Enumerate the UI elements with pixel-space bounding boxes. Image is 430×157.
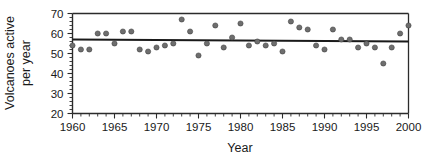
data-point [246,43,251,48]
data-point [230,35,235,40]
data-point [288,19,293,24]
x-tick-label: 1985 [270,121,296,133]
data-point [104,31,109,36]
data-point [398,31,403,36]
data-point [95,31,100,36]
data-point [204,41,209,46]
data-point [70,43,75,48]
data-point [221,45,226,50]
data-point [112,41,117,46]
data-point [179,17,184,22]
data-point [314,43,319,48]
x-tick-label: 1965 [102,121,128,133]
y-axis-ticks [68,14,73,114]
data-point [406,23,411,28]
x-tick-label: 2000 [396,121,422,133]
y-tick-label: 70 [51,8,64,20]
y-tick-label: 30 [51,88,64,100]
trend-line [73,40,409,42]
y-axis-title-line2: per year [19,40,33,86]
data-point [154,45,159,50]
data-point [330,27,335,32]
data-point [280,49,285,54]
data-point [364,41,369,46]
data-point [188,29,193,34]
y-axis-tick-labels: 203040506070 [51,8,64,120]
x-axis-ticks [73,114,409,119]
plot-frame [73,14,409,114]
data-point [272,41,277,46]
data-point [339,37,344,42]
x-tick-label: 1980 [228,121,254,133]
data-point [356,45,361,50]
data-point [389,45,394,50]
data-point [263,43,268,48]
data-point [372,45,377,50]
x-tick-label: 1990 [312,121,338,133]
data-point [129,29,134,34]
data-point [162,43,167,48]
chart-canvas: 203040506070 196019651970197519801985199… [0,0,430,157]
data-point [78,47,83,52]
x-axis-tick-labels: 196019651970197519801985199019952000 [60,121,422,133]
y-axis-title-line1: Volcanoes active [3,16,17,110]
data-point [120,29,125,34]
data-point [213,23,218,28]
data-point [171,41,176,46]
data-point [146,49,151,54]
volcano-scatter-chart: 203040506070 196019651970197519801985199… [0,0,430,157]
trend-line-segment [73,40,409,42]
x-tick-label: 1970 [144,121,170,133]
data-point [297,25,302,30]
y-tick-label: 50 [51,48,64,60]
data-point [347,37,352,42]
y-tick-label: 20 [51,108,64,120]
x-tick-label: 1995 [354,121,380,133]
data-point [87,47,92,52]
data-point [305,27,310,32]
y-tick-label: 40 [51,68,64,80]
data-point [238,21,243,26]
data-point [322,47,327,52]
x-axis-title: Year [227,141,252,155]
data-point [137,47,142,52]
data-point [255,39,260,44]
x-tick-label: 1975 [186,121,212,133]
x-tick-label: 1960 [60,121,86,133]
data-point [196,53,201,58]
data-point [381,61,386,66]
y-tick-label: 60 [51,28,64,40]
